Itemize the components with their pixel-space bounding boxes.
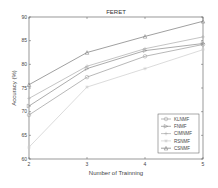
- legend-label-csnmf: CSNMF: [174, 146, 190, 151]
- y-tick-label: 80: [21, 61, 27, 67]
- y-tick-label: 90: [21, 14, 27, 20]
- chart-title: FERET: [106, 9, 126, 15]
- y-tick-label: 75: [21, 85, 27, 91]
- data-marker: [27, 145, 31, 149]
- line-chart: FERET234560657075808590Number of Trainni…: [0, 0, 218, 188]
- y-tick-label: 65: [21, 132, 27, 138]
- data-marker: [85, 85, 89, 89]
- legend-label-fnmf: FNMF: [174, 124, 187, 129]
- x-tick-label: 2: [28, 161, 31, 167]
- legend-label-cimnmf: CIMNMF: [174, 131, 192, 136]
- legend-label-rsnmf: RSNMF: [174, 139, 190, 144]
- y-tick-label: 60: [21, 156, 27, 162]
- legend-label-klnmf: KLNMF: [174, 117, 190, 122]
- x-axis-label: Number of Trainning: [89, 170, 143, 176]
- x-tick-label: 3: [86, 161, 89, 167]
- x-tick-label: 4: [144, 161, 147, 167]
- x-tick-label: 5: [202, 161, 205, 167]
- y-axis-label: Accuracy (%): [11, 70, 17, 106]
- y-tick-label: 70: [21, 108, 27, 114]
- y-tick-label: 85: [21, 37, 27, 43]
